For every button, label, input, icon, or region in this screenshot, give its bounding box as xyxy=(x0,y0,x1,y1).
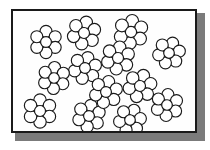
figure-canvas xyxy=(0,0,210,150)
figure-frame xyxy=(11,9,197,133)
figure-field xyxy=(13,11,195,131)
